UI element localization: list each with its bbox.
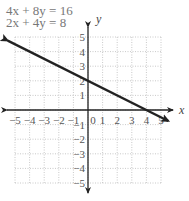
svg-text:1: 1 — [100, 114, 106, 126]
svg-text:−5: −5 — [9, 114, 21, 126]
svg-text:−1: −1 — [73, 119, 85, 131]
svg-text:−5: −5 — [73, 177, 85, 189]
svg-text:1: 1 — [80, 89, 86, 101]
svg-text:−3: −3 — [38, 114, 50, 126]
coordinate-plane: xy −5−4−3−2−1012345−5−4−3−2−112345 — [0, 0, 189, 201]
svg-text:−3: −3 — [73, 148, 85, 160]
svg-text:5: 5 — [80, 31, 86, 43]
svg-text:−2: −2 — [53, 114, 65, 126]
y-axis-label: y — [95, 12, 102, 26]
svg-text:−4: −4 — [24, 114, 36, 126]
svg-text:4: 4 — [80, 46, 86, 58]
axes: xy — [7, 12, 185, 193]
svg-text:4: 4 — [144, 114, 150, 126]
svg-text:3: 3 — [129, 114, 135, 126]
svg-text:0: 0 — [90, 114, 96, 126]
x-axis-label: x — [178, 103, 185, 117]
svg-text:−4: −4 — [73, 162, 85, 174]
svg-text:3: 3 — [80, 60, 86, 72]
svg-text:−2: −2 — [73, 133, 85, 145]
svg-text:2: 2 — [114, 114, 120, 126]
